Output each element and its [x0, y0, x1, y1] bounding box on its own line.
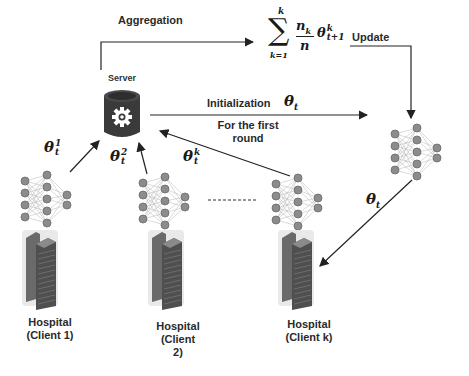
client2-label-line3: 2): [138, 346, 218, 359]
fraction-numerator: nk: [296, 18, 311, 36]
initialization-label: Initialization: [207, 97, 271, 109]
client2-label-line2: (Client: [138, 333, 218, 346]
update-arrow: [350, 46, 411, 118]
sum-lower-limit: k=1: [270, 50, 288, 60]
client2-theta: θ2t: [110, 147, 127, 166]
client1-model: [21, 171, 71, 227]
client2-model: [139, 173, 189, 229]
aggregation-label: Aggregation: [118, 14, 183, 26]
first-round-line2: round: [208, 132, 288, 145]
client1-label: Hospital (Client 1): [10, 316, 90, 342]
client2-label-line1: Hospital: [138, 320, 218, 333]
clientk-label-line2: (Client k): [269, 331, 349, 344]
init-theta: θt: [284, 92, 298, 112]
global-model: [391, 124, 441, 180]
aggregation-arrow: [101, 42, 253, 70]
client2-to-server-arrow: [139, 143, 147, 174]
clientk-label-line1: Hospital: [269, 318, 349, 331]
client1-label-line2: (Client 1): [10, 329, 90, 342]
fraction-bar: [296, 36, 314, 37]
formula-theta: θkt+1: [317, 24, 345, 42]
server-label: Server: [108, 73, 136, 83]
clientk-label: Hospital (Client k): [269, 318, 349, 344]
client1-to-server-arrow: [70, 141, 99, 172]
sum-symbol: ∑: [268, 12, 289, 47]
clientk-theta: θkt: [183, 147, 200, 166]
first-round-note: For the first round: [208, 119, 288, 145]
hospital-building-k: [278, 230, 314, 310]
fraction-denominator: n: [300, 38, 309, 53]
hospital-building-2: [148, 230, 184, 310]
clientk-model: [272, 174, 322, 230]
aggregation-formula: k ∑ k=1 nk n θkt+1: [268, 6, 358, 70]
global-theta: θt: [366, 190, 380, 210]
server-icon: [104, 90, 140, 137]
hospital-building-1: [22, 230, 58, 310]
client1-theta: θ1t: [44, 138, 61, 157]
client1-label-line1: Hospital: [10, 316, 90, 329]
first-round-line1: For the first: [208, 119, 288, 132]
client2-label: Hospital (Client 2): [138, 320, 218, 359]
